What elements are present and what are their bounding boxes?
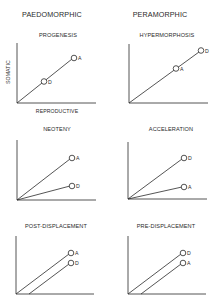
diagram-graphs (0, 0, 213, 303)
trajectory-a-line (17, 159, 70, 200)
point-label: D (48, 79, 52, 85)
point-label: A (78, 55, 82, 61)
panel-acceleration-graph (128, 142, 207, 199)
point-d-marker (181, 155, 187, 161)
panel-neoteny-graph (17, 140, 96, 200)
point-a-marker (173, 66, 179, 72)
point-label: D (76, 183, 80, 189)
trajectory-d-line (29, 264, 69, 294)
point-a-marker (69, 155, 75, 161)
panel-progenesis-graph (17, 43, 96, 103)
point-d-marker (41, 79, 47, 85)
point-label: A (75, 250, 79, 256)
point-label: A (187, 260, 191, 266)
point-a-marker (181, 184, 187, 190)
panel-pre-displacement-graph (128, 236, 206, 294)
panel-hypermorphosis-graph (129, 44, 208, 103)
trajectory-d-line (128, 254, 181, 294)
trajectory-a-line (141, 264, 181, 294)
point-label: D (187, 250, 191, 256)
point-a-marker (180, 260, 186, 266)
point-d-marker (198, 48, 204, 54)
trajectory-a-line (16, 254, 69, 294)
trajectory-d-line (17, 186, 70, 200)
point-label: A (180, 66, 184, 72)
panel-post-displacement-graph (16, 236, 94, 294)
point-label: D (75, 260, 79, 266)
point-d-marker (69, 183, 75, 189)
trajectory-line (129, 52, 199, 103)
point-d-marker (180, 250, 186, 256)
point-a-marker (71, 55, 77, 61)
point-label: A (188, 184, 192, 190)
point-label: D (205, 48, 209, 54)
point-label: A (76, 155, 80, 161)
point-d-marker (68, 260, 74, 266)
point-label: D (188, 155, 192, 161)
point-a-marker (68, 250, 74, 256)
